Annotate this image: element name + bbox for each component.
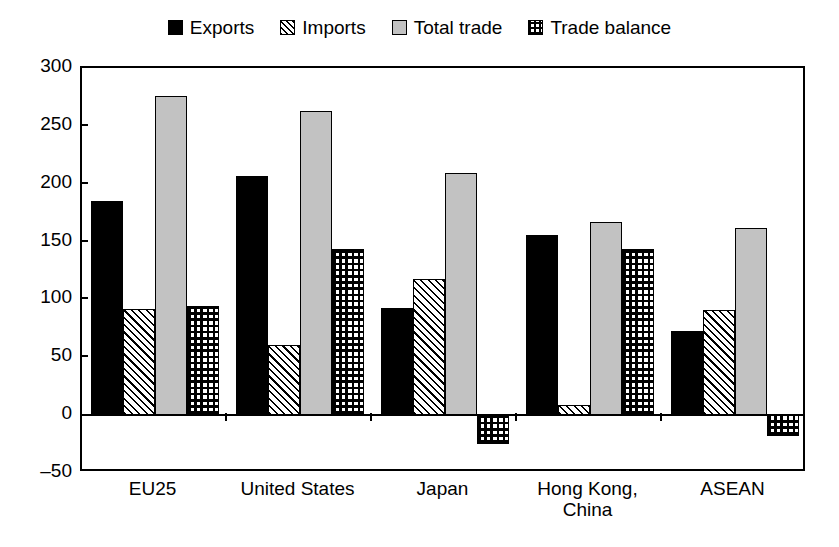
bar-hong-kong-china-trade-balance: [622, 249, 654, 416]
y-tick-mark: [80, 124, 88, 126]
y-tick-label: 100: [10, 287, 72, 306]
x-axis-label-line2: China: [515, 499, 660, 520]
chart-legend: Exports Imports Total trade Trade balanc…: [0, 18, 839, 37]
x-tick-mark: [660, 413, 662, 421]
bar-asean-exports: [671, 331, 703, 415]
y-tick-mark: [80, 240, 88, 242]
y-tick-label: 0: [10, 403, 72, 422]
plot-area: [80, 66, 805, 471]
x-axis-label-line1: Japan: [370, 478, 515, 499]
x-axis-label-line1: United States: [225, 478, 370, 499]
y-tick-mark: [80, 182, 88, 184]
bar-united-states-total-trade: [300, 111, 332, 415]
y-tick-label: 50: [10, 345, 72, 364]
legend-item-imports: Imports: [280, 18, 365, 37]
bar-united-states-imports: [268, 345, 300, 416]
y-tick-label: 300: [10, 56, 72, 75]
x-axis-label-line1: EU25: [80, 478, 225, 499]
legend-swatch-trade-balance-icon: [528, 20, 543, 35]
legend-item-total-trade: Total trade: [392, 18, 503, 37]
bar-eu25-imports: [123, 309, 155, 415]
y-tick-label: 150: [10, 230, 72, 249]
bar-japan-exports: [381, 308, 413, 416]
y-tick-mark: [80, 355, 88, 357]
legend-item-trade-balance: Trade balance: [528, 18, 671, 37]
x-tick-mark: [225, 413, 227, 421]
legend-item-exports: Exports: [168, 18, 254, 37]
bar-japan-total-trade: [445, 173, 477, 415]
bar-japan-imports: [413, 279, 445, 416]
bar-japan-trade-balance: [477, 415, 509, 444]
legend-label-exports: Exports: [190, 18, 254, 37]
bar-hong-kong-china-imports: [558, 405, 590, 415]
bar-united-states-exports: [236, 176, 268, 416]
legend-label-imports: Imports: [302, 18, 365, 37]
x-tick-mark: [515, 413, 517, 421]
legend-label-total-trade: Total trade: [414, 18, 503, 37]
bar-asean-trade-balance: [767, 415, 799, 436]
bar-hong-kong-china-exports: [526, 235, 558, 416]
bar-eu25-total-trade: [155, 96, 187, 415]
legend-swatch-exports-icon: [168, 20, 183, 35]
y-tick-label: 200: [10, 172, 72, 191]
bar-eu25-trade-balance: [187, 306, 219, 415]
bar-chart: Exports Imports Total trade Trade balanc…: [0, 0, 839, 547]
x-axis-label-line1: Hong Kong,: [515, 478, 660, 499]
bar-united-states-trade-balance: [332, 249, 364, 416]
y-tick-label: –50: [10, 461, 72, 480]
x-axis-label: EU25: [80, 478, 225, 499]
x-axis-label: Japan: [370, 478, 515, 499]
x-axis-label: Hong Kong,China: [515, 478, 660, 520]
x-tick-mark: [370, 413, 372, 421]
bar-hong-kong-china-total-trade: [590, 222, 622, 415]
x-axis-label: United States: [225, 478, 370, 499]
y-tick-mark: [80, 297, 88, 299]
legend-label-trade-balance: Trade balance: [550, 18, 671, 37]
x-axis-label-line1: ASEAN: [660, 478, 805, 499]
x-axis-label: ASEAN: [660, 478, 805, 499]
bar-asean-total-trade: [735, 228, 767, 415]
legend-swatch-imports-icon: [280, 20, 295, 35]
legend-swatch-total-trade-icon: [392, 20, 407, 35]
bar-eu25-exports: [91, 201, 123, 415]
bar-asean-imports: [703, 310, 735, 415]
y-tick-label: 250: [10, 114, 72, 133]
